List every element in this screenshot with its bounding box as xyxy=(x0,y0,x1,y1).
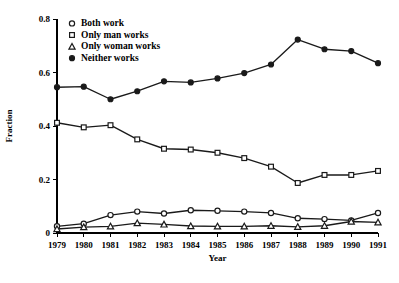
data-point-open-square xyxy=(376,169,381,174)
legend-item-label: Only woman works xyxy=(81,41,160,51)
data-point-open-square xyxy=(269,164,274,169)
data-point-open-triangle xyxy=(134,220,140,226)
x-tick-label: 1979 xyxy=(48,240,67,250)
data-point-filled-circle xyxy=(242,71,247,76)
data-point-open-triangle xyxy=(69,44,75,50)
data-point-filled-circle xyxy=(55,85,60,90)
data-point-open-circle xyxy=(108,212,113,217)
data-point-open-triangle xyxy=(188,223,194,229)
y-tick-label: 0.6 xyxy=(39,68,51,78)
data-point-filled-circle xyxy=(322,47,327,52)
x-tick-label: 1984 xyxy=(182,240,201,250)
data-point-filled-circle xyxy=(70,56,75,61)
x-axis-title: Year xyxy=(209,253,227,263)
data-point-open-square xyxy=(81,125,86,130)
data-point-open-circle xyxy=(69,21,74,26)
x-tick-label: 1987 xyxy=(262,240,281,250)
data-point-open-triangle xyxy=(375,219,381,225)
data-point-open-circle xyxy=(242,209,247,214)
data-point-open-square xyxy=(162,146,167,151)
data-point-open-square xyxy=(108,123,113,128)
data-point-open-triangle xyxy=(107,223,113,229)
x-tick-label: 1985 xyxy=(209,240,228,250)
data-point-open-square xyxy=(295,181,300,186)
data-point-filled-circle xyxy=(162,79,167,84)
data-point-filled-circle xyxy=(269,62,274,67)
data-point-open-triangle xyxy=(295,224,301,230)
data-point-open-square xyxy=(70,33,75,38)
line-chart: 00.20.40.60.8197919801981198219831984198… xyxy=(0,0,399,283)
y-tick-label: 0.2 xyxy=(39,175,51,185)
data-point-filled-circle xyxy=(376,61,381,66)
legend-item-both-work: Both work xyxy=(69,18,124,28)
y-tick-label: 0.8 xyxy=(39,14,51,24)
series-only-man-works xyxy=(55,120,381,185)
data-point-open-circle xyxy=(161,211,166,216)
data-point-open-circle xyxy=(215,208,220,213)
x-tick-label: 1983 xyxy=(155,240,174,250)
data-point-open-square xyxy=(215,150,220,155)
chart-figure: 00.20.40.60.8197919801981198219831984198… xyxy=(0,0,399,283)
data-point-filled-circle xyxy=(188,80,193,85)
y-tick-label: 0.4 xyxy=(39,121,51,131)
data-point-open-triangle xyxy=(214,223,220,229)
data-point-filled-circle xyxy=(215,76,220,81)
x-tick-label: 1989 xyxy=(316,240,335,250)
y-tick-label: 0 xyxy=(46,228,51,238)
data-series-group xyxy=(54,37,381,231)
data-point-filled-circle xyxy=(81,84,86,89)
x-tick-label: 1982 xyxy=(128,240,147,250)
data-point-open-triangle xyxy=(321,223,327,229)
data-point-open-square xyxy=(242,156,247,161)
data-point-filled-circle xyxy=(295,37,300,42)
x-tick-label: 1988 xyxy=(289,240,308,250)
data-point-open-square xyxy=(55,120,60,125)
data-point-open-circle xyxy=(295,216,300,221)
legend-item-only-man-works: Only man works xyxy=(70,30,149,40)
x-tick-label: 1980 xyxy=(75,240,94,250)
data-point-open-circle xyxy=(375,210,380,215)
data-point-open-square xyxy=(188,147,193,152)
data-point-open-circle xyxy=(135,209,140,214)
data-point-filled-circle xyxy=(135,89,140,94)
chart-legend: Both workOnly man worksOnly woman worksN… xyxy=(69,18,161,63)
data-point-open-square xyxy=(322,173,327,178)
legend-item-label: Neither works xyxy=(81,53,139,63)
data-point-open-triangle xyxy=(268,223,274,229)
data-point-open-square xyxy=(349,173,354,178)
x-tick-label: 1991 xyxy=(369,240,388,250)
data-point-open-triangle xyxy=(241,223,247,229)
data-point-open-circle xyxy=(322,216,327,221)
x-tick-label: 1986 xyxy=(235,240,254,250)
x-tick-label: 1990 xyxy=(342,240,361,250)
legend-item-label: Both work xyxy=(81,18,125,28)
data-point-open-square xyxy=(135,137,140,142)
data-point-open-triangle xyxy=(161,221,167,227)
data-point-open-circle xyxy=(268,210,273,215)
legend-item-label: Only man works xyxy=(81,30,149,40)
x-tick-label: 1981 xyxy=(102,240,121,250)
data-point-filled-circle xyxy=(349,49,354,54)
legend-item-neither-works: Neither works xyxy=(70,53,139,63)
data-point-open-circle xyxy=(188,208,193,213)
y-axis-title: Fraction xyxy=(4,110,14,143)
series-only-woman-works xyxy=(54,218,381,231)
data-point-filled-circle xyxy=(108,97,113,102)
legend-item-only-woman-works: Only woman works xyxy=(69,41,161,51)
